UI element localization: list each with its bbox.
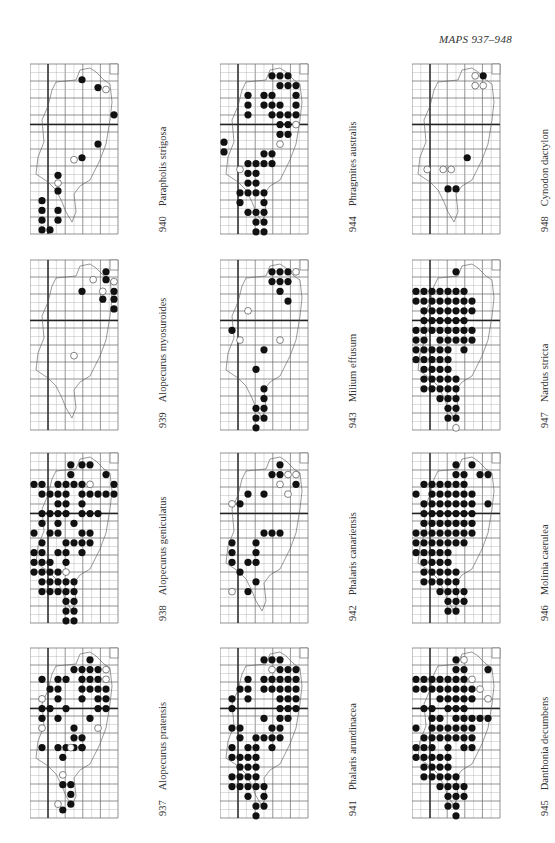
map-number: 947 [539,412,550,428]
grid-map [30,646,154,824]
grid-map [412,646,536,824]
species-name: Molinia caerulea [539,524,550,595]
species-name: Danthonia decumbens [539,697,550,791]
grid-map [412,258,536,436]
species-name: Alopecurus pratensis [157,702,168,790]
grid-map [30,451,154,629]
map-caption: 939Alopecurus myosuroides [154,258,174,428]
map-caption: 944Phragmites australis [344,62,364,232]
grid-map [30,62,154,240]
map-number: 946 [539,605,550,621]
map-caption: 942Phalaris canariensis [344,451,364,621]
grid-map [220,258,344,436]
grid-map [412,451,536,629]
grid-map [412,62,536,240]
distribution-map-938: 938Alopecurus geniculatus [30,451,160,629]
grid-map [220,646,344,824]
map-caption: 948Cynodon dactylon [536,62,555,232]
map-caption: 941Phalaris arundinacea [344,646,364,816]
map-number: 938 [157,605,168,621]
species-name: Parapholis strigosa [157,127,168,207]
distribution-map-945: 945Danthonia decumbens [412,646,542,824]
distribution-map-947: 947Nardus stricta [412,258,542,436]
grid-map [30,258,154,436]
map-number: 948 [539,216,550,232]
distribution-map-942: 942Phalaris canariensis [220,451,350,629]
distribution-map-937: 937Alopecurus pratensis [30,646,160,824]
grid-map [220,62,344,240]
map-number: 942 [347,605,358,621]
map-caption: 946Molinia caerulea [536,451,555,621]
map-number: 943 [347,412,358,428]
distribution-map-939: 939Alopecurus myosuroides [30,258,160,436]
map-number: 945 [539,800,550,816]
species-name: Phragmites australis [347,121,358,206]
map-caption: 940Parapholis strigosa [154,62,174,232]
map-number: 944 [347,216,358,232]
distribution-map-944: 944Phragmites australis [220,62,350,240]
species-name: Nardus stricta [539,344,550,403]
map-number: 941 [347,800,358,816]
species-name: Phalaris arundinacea [347,703,358,790]
map-caption: 945Danthonia decumbens [536,646,555,816]
species-name: Milium effusum [347,334,358,402]
species-name: Phalaris canariensis [347,512,358,595]
map-caption: 938Alopecurus geniculatus [154,451,174,621]
map-number: 937 [157,800,168,816]
distribution-map-941: 941Phalaris arundinacea [220,646,350,824]
map-number: 939 [157,412,168,428]
distribution-map-943: 943Milium effusum [220,258,350,436]
map-caption: 937Alopecurus pratensis [154,646,174,816]
species-name: Alopecurus geniculatus [157,496,168,595]
species-name: Cynodon dactylon [539,129,550,206]
page-header: MAPS 937–948 [439,33,512,45]
distribution-map-948: 948Cynodon dactylon [412,62,542,240]
distribution-map-940: 940Parapholis strigosa [30,62,160,240]
map-caption: 943Milium effusum [344,258,364,428]
species-name: Alopecurus myosuroides [157,298,168,403]
map-caption: 947Nardus stricta [536,258,555,428]
map-number: 940 [157,216,168,232]
grid-map [220,451,344,629]
distribution-map-946: 946Molinia caerulea [412,451,542,629]
